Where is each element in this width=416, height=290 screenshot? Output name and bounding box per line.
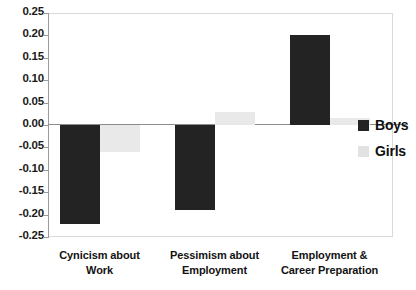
y-axis-tick-label: -0.20 [19, 207, 44, 219]
category-label-line: Pessimism about [157, 248, 272, 263]
bar-boys-2 [290, 35, 330, 125]
y-axis-tick-label: 0.00 [22, 117, 44, 129]
category-label-1: Pessimism aboutEmployment [157, 248, 272, 277]
category-label-line: Cynicism about [42, 248, 157, 263]
y-axis-tick-mark [43, 237, 49, 238]
category-label-0: Cynicism aboutWork [42, 248, 157, 277]
legend-label: Girls [375, 143, 406, 159]
bars-layer [48, 13, 393, 237]
category-label-line: Employment [157, 263, 272, 278]
y-axis-tick-label: 0.25 [22, 5, 44, 17]
category-label-line: Career Preparation [272, 263, 387, 278]
y-axis-tick-label: -0.10 [19, 162, 44, 174]
bar-chart: 0.250.200.150.100.050.00-0.05-0.10-0.15-… [0, 0, 416, 290]
legend-label: Boys [375, 117, 408, 133]
category-label-2: Employment &Career Preparation [272, 248, 387, 277]
legend-item-girls[interactable]: Girls [358, 138, 408, 164]
boys-swatch-icon [358, 120, 369, 131]
y-axis-tick-label: -0.25 [19, 229, 44, 241]
y-axis-tick-label: -0.05 [19, 139, 44, 151]
y-axis-tick-label: 0.10 [22, 72, 44, 84]
legend-item-boys[interactable]: Boys [358, 112, 408, 138]
girls-swatch-icon [358, 146, 369, 157]
bar-boys-1 [175, 125, 215, 210]
y-axis-tick-label: 0.05 [22, 95, 44, 107]
bar-boys-0 [60, 125, 100, 224]
bottom-margin [0, 283, 416, 290]
y-axis-tick-label: -0.15 [19, 184, 44, 196]
y-axis-tick-label: 0.20 [22, 27, 44, 39]
category-label-line: Employment & [272, 248, 387, 263]
chart-legend: BoysGirls [358, 112, 408, 164]
category-label-line: Work [42, 263, 157, 278]
bar-girls-1 [215, 112, 255, 125]
y-axis-tick-label: 0.15 [22, 50, 44, 62]
bar-girls-0 [100, 125, 140, 152]
